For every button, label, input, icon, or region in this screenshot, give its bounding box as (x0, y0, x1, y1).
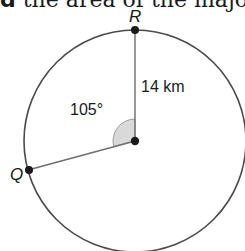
radius-length-label: 14 km (141, 78, 185, 95)
point-q-dot (25, 166, 33, 174)
point-q-label: Q (10, 165, 23, 184)
angle-label: 105° (70, 101, 103, 118)
center-dot (131, 137, 139, 145)
point-r-label: R (129, 7, 141, 26)
point-r-dot (131, 26, 139, 34)
circle-sector-diagram: R Q 14 km 105° (0, 0, 245, 251)
radius-line-q (28, 141, 135, 170)
